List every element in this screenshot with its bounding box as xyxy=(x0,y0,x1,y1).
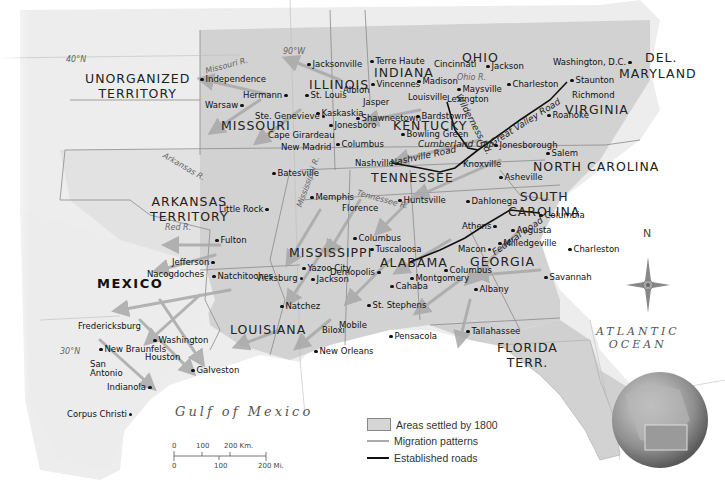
city-bardstown: Bardstown xyxy=(414,112,467,121)
scale-km-100: 100 xyxy=(196,443,209,450)
city-vincennes: Vincennes xyxy=(369,80,420,89)
city-charleston-sc: Charleston xyxy=(566,245,619,254)
settled-swatch xyxy=(367,418,391,431)
region-delaware: DEL. xyxy=(645,52,677,65)
region-unorganized-territory: UNORGANIZEDTERRITORY xyxy=(85,73,190,100)
river-red: Red R. xyxy=(165,224,191,232)
city-columbus-ga: Columbus xyxy=(442,266,492,275)
cumberland-gap: Cumberland Gap xyxy=(418,140,494,149)
city-st-louis: St. Louis xyxy=(303,91,347,100)
city-independence: Independence xyxy=(198,75,266,84)
city-savannah: Savannah xyxy=(542,273,592,282)
city-staunton: Staunton xyxy=(568,76,614,85)
city-hermann: Hermann xyxy=(243,91,290,100)
city-biloxi: Biloxi xyxy=(322,326,345,335)
city-indianola: Indianola xyxy=(107,383,154,392)
city-jefferson: Jefferson xyxy=(172,258,217,267)
city-jacksonville: Jacksonville xyxy=(305,60,362,69)
city-jonesboro: Jonesboro xyxy=(327,121,376,130)
city-florence: Florence xyxy=(342,204,378,213)
scale-km-200: 200 Km. xyxy=(224,443,253,450)
city-roanoke: Roanoke xyxy=(545,111,589,120)
city-dahlonega: Dahlonega xyxy=(464,197,517,206)
city-cincinnati: Cincinnati xyxy=(434,60,476,69)
compass-north: N xyxy=(643,228,651,239)
scale-km-0: 0 xyxy=(172,443,176,450)
city-richmond: Richmond xyxy=(572,91,615,100)
river-ohio: Ohio R. xyxy=(457,74,486,82)
city-terre-haute: Terre Haute xyxy=(368,57,425,66)
city-little-rock: Little Rock xyxy=(219,205,271,214)
region-maryland: MARYLAND xyxy=(619,68,697,81)
locator-globe xyxy=(612,372,708,468)
atlantic-ocean: ATLANTICOCEAN xyxy=(596,326,680,350)
legend-roads: Established roads xyxy=(367,452,477,464)
city-warsaw: Warsaw xyxy=(205,101,246,110)
compass-rose xyxy=(626,257,670,313)
city-new-orleans: New Orleans xyxy=(312,347,374,356)
city-knoxville: Knoxville xyxy=(463,160,501,169)
region-tennessee: TENNESSEE xyxy=(371,172,454,185)
historical-map: UNORGANIZEDTERRITORY ILLINOIS INDIANA OH… xyxy=(0,0,725,495)
city-cape-girardeau: Cape Girardeau xyxy=(268,131,335,140)
city-madison: Madison xyxy=(415,77,458,86)
region-north-carolina: NORTH CAROLINA xyxy=(533,161,659,174)
city-san-antonio: San Antonio xyxy=(90,360,130,377)
city-columbus-ms: Columbus xyxy=(351,234,401,243)
city-galveston: Galveston xyxy=(189,366,239,375)
region-alabama: ALABAMA xyxy=(380,257,448,270)
city-tallahassee: Tallahassee xyxy=(464,327,520,336)
city-corpus-christi: Corpus Christi xyxy=(67,410,134,419)
city-st-stephens: St. Stephens xyxy=(365,301,426,310)
city-bowling-green: Bowling Green xyxy=(399,130,468,139)
city-charleston-wv: Charleston xyxy=(505,80,558,89)
city-jackson-oh: Jackson xyxy=(484,62,524,71)
city-athens: Athens xyxy=(462,222,499,231)
region-mississippi: MISSISSIPPI xyxy=(289,247,372,260)
legend-settled: Areas settled by 1800 xyxy=(367,418,498,431)
scale-mi-0: 0 xyxy=(172,463,176,470)
latitude-30n: 30°N xyxy=(60,348,80,356)
city-tuscaloosa: Tuscaloosa xyxy=(368,245,422,254)
scale-mi-100: 100 xyxy=(214,463,227,470)
longitude-90w: 90°W xyxy=(283,48,305,56)
city-macon: Macon xyxy=(458,245,493,254)
legend-migration: Migration patterns xyxy=(367,435,478,447)
city-fredericksburg: Fredericksburg xyxy=(78,322,141,331)
city-pensacola: Pensacola xyxy=(387,332,437,341)
city-jackson-ms: Jackson xyxy=(309,275,349,284)
city-new-madrid: New Madrid xyxy=(281,143,331,152)
city-houston: Houston xyxy=(145,353,180,362)
city-jasper: Jasper xyxy=(363,98,389,107)
city-cahaba: Cahaba xyxy=(388,282,428,291)
city-natchez: Natchez xyxy=(278,302,320,311)
region-arkansas-territory: ARKANSASTERRITORY xyxy=(150,196,229,223)
latitude-40n: 40°N xyxy=(66,56,86,64)
region-louisiana: LOUISIANA xyxy=(230,324,306,337)
city-albion: Albion xyxy=(343,86,370,95)
gulf-of-mexico: Gulf of Mexico xyxy=(175,405,313,418)
city-fulton: Fulton xyxy=(213,236,247,245)
city-louisville: Louisville xyxy=(408,93,447,102)
city-salem: Salem xyxy=(544,149,578,158)
road-line-icon xyxy=(367,457,389,459)
city-memphis: Memphis xyxy=(308,193,354,202)
city-nacogdoches: Nacogdoches xyxy=(147,270,204,279)
city-columbus-ky: Columbus xyxy=(334,140,384,149)
city-asheville: Asheville xyxy=(497,173,543,182)
city-vicksburg: Vicksburg xyxy=(256,274,305,283)
city-columbia-sc: Columbia xyxy=(537,211,585,220)
region-florida-territory: FLORIDATERR. xyxy=(497,342,558,369)
migration-arrow-icon xyxy=(367,440,389,442)
city-washington-dc: Washington, D.C. xyxy=(553,58,634,67)
city-albany: Albany xyxy=(472,285,509,294)
scale-mi-200: 200 Mi. xyxy=(258,463,284,470)
